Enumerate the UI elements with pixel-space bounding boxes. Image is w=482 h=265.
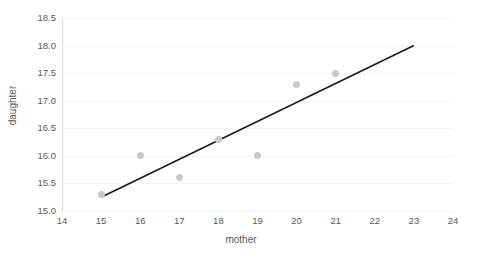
x-axis-tick-label: 19 [243,215,273,226]
x-axis-tick-label: 18 [203,215,233,226]
regression-line-segment [101,46,414,198]
x-axis-tick-label: 14 [47,215,77,226]
gridline-horizontal [62,211,453,212]
x-axis-tick-label: 17 [164,215,194,226]
data-point [98,191,105,198]
data-point [332,70,339,77]
data-point [215,136,222,143]
x-axis-tick-label: 21 [321,215,351,226]
y-axis-tick-label: 18.5 [12,13,56,23]
x-axis-title: mother [0,234,482,245]
x-axis-tick-label: 23 [399,215,429,226]
y-axis-tick-label: 17.0 [12,96,56,106]
x-axis-tick-label: 15 [86,215,116,226]
regression-line [62,18,453,211]
y-axis-tick-label: 18.0 [12,41,56,51]
y-axis-tick-label: 16.5 [12,123,56,133]
plot-area [62,18,453,211]
y-axis-title: daughter [7,66,18,146]
y-axis-tick-label: 17.5 [12,68,56,78]
x-axis-tick-label: 24 [438,215,468,226]
x-axis-tick-label: 16 [125,215,155,226]
x-axis-tick-label: 20 [282,215,312,226]
scatter-chart: 15.015.516.016.517.017.518.018.5 1415161… [0,0,482,265]
y-axis-tick-label: 15.5 [12,178,56,188]
x-axis-tick-label: 22 [360,215,390,226]
data-point [293,81,300,88]
y-axis-tick-label: 16.0 [12,151,56,161]
